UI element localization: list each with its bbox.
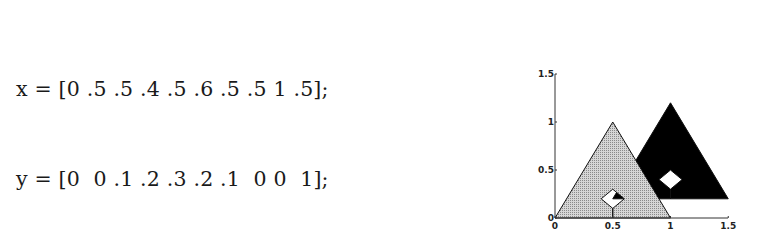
y-tick-label: 0 bbox=[548, 213, 554, 223]
code-listing: x = [0 .5 .5 .4 .5 .6 .5 .5 1 .5]; y = [… bbox=[16, 14, 329, 239]
x-tick-label: 0.5 bbox=[605, 221, 621, 231]
plot-area bbox=[555, 103, 728, 218]
code-line-1: x = [0 .5 .5 .4 .5 .6 .5 .5 1 .5]; bbox=[16, 74, 329, 104]
x-tick-label: 1 bbox=[667, 221, 673, 231]
y-tick-label: 1 bbox=[548, 117, 554, 127]
patch-figure: 00.511.500.511.5 bbox=[520, 60, 758, 239]
y-tick-label: 0.5 bbox=[538, 165, 554, 175]
y-tick-label: 1.5 bbox=[538, 69, 554, 79]
x-tick-label: 1.5 bbox=[720, 221, 736, 231]
code-line-2: y = [0 0 .1 .2 .3 .2 .1 0 0 1]; bbox=[16, 164, 329, 194]
